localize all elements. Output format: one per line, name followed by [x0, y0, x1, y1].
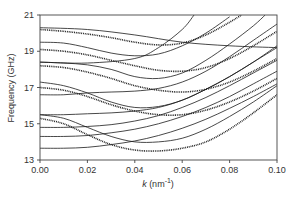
y-tick-label: 19 — [24, 46, 34, 56]
x-tick-label: 0.08 — [221, 165, 239, 175]
y-tick-label: 13 — [24, 155, 34, 165]
x-tick-label: 0.00 — [31, 165, 49, 175]
y-axis: 1315171921 — [24, 10, 40, 165]
y-tick-label: 21 — [24, 10, 34, 20]
solid-curve — [40, 17, 230, 56]
solid-curve — [40, 46, 277, 108]
x-axis-label-unit: (nm — [147, 179, 165, 189]
dotted-curve — [40, 31, 277, 71]
solid-curve — [40, 48, 277, 115]
dispersion-chart: 1315171921 0.000.020.040.060.080.10 Freq… — [0, 0, 293, 204]
plot-frame — [40, 15, 277, 160]
x-tick-label: 0.10 — [268, 165, 286, 175]
y-tick-label: 17 — [24, 83, 34, 93]
x-axis-label-close: ) — [171, 179, 174, 189]
x-tick-label: 0.04 — [126, 165, 144, 175]
y-tick-label: 15 — [24, 119, 34, 129]
x-tick-label: 0.02 — [79, 165, 97, 175]
x-axis: 0.000.020.040.060.080.10 — [31, 160, 286, 175]
plot-lines — [40, 15, 277, 151]
x-tick-label: 0.06 — [173, 165, 191, 175]
y-axis-label: Frequency (GHz) — [6, 53, 16, 122]
x-axis-label: k (nm-1) — [142, 177, 174, 189]
solid-curve — [40, 15, 265, 79]
solid-curve — [40, 24, 277, 95]
